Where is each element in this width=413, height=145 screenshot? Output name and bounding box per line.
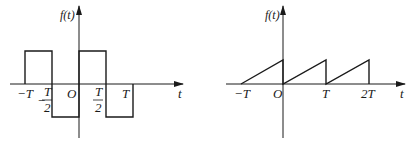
left-y-axis-label: f(t) xyxy=(60,8,75,22)
left-tick-half-T-den: 2 xyxy=(95,100,102,115)
left-x-axis-label: t xyxy=(178,86,182,101)
left-tick-half-T-num: T xyxy=(95,84,103,99)
right-tick-2T: 2T xyxy=(361,86,376,101)
right-y-axis-label: f(t) xyxy=(265,8,280,22)
left-tick-neg-half-T-den: 2 xyxy=(44,100,51,115)
right-tick-neg-T: −T xyxy=(234,86,251,101)
left-tick-neg-T: −T xyxy=(17,86,34,101)
right-x-axis-label: t xyxy=(400,86,404,101)
left-square-wave-plot: f(t) t O −T − T 2 T 2 T xyxy=(10,6,183,138)
right-tick-T: T xyxy=(322,86,330,101)
right-sawtooth-curve xyxy=(241,60,369,84)
left-tick-T: T xyxy=(122,86,130,101)
left-origin-label: O xyxy=(67,86,77,101)
left-tick-neg-half-T-num: T xyxy=(44,84,52,99)
right-sawtooth-wave-plot: f(t) t O −T T 2T xyxy=(226,6,405,138)
diagram-canvas: f(t) t O −T − T 2 T 2 T f(t) t O −T T 2T xyxy=(0,0,413,145)
right-origin-label: O xyxy=(273,86,283,101)
